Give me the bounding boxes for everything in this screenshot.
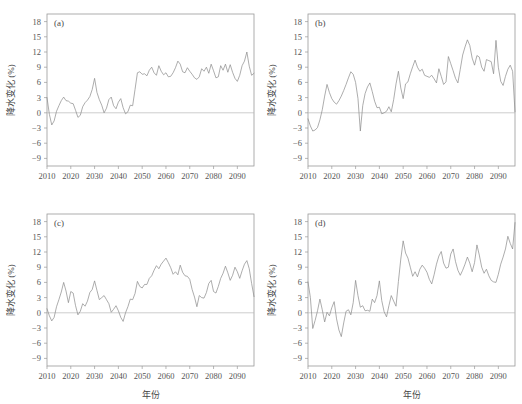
- y-tick-label: −3: [32, 323, 41, 333]
- panel-d-plot: 1815129630−3−6−9201020202030204020502060…: [261, 200, 522, 404]
- y-axis-title: 降水变化 (%): [266, 64, 277, 116]
- y-tick-label: 15: [294, 32, 303, 42]
- y-tick-label: 3: [37, 93, 41, 103]
- y-tick-label: −6: [32, 138, 41, 148]
- y-tick-label: 0: [37, 308, 41, 318]
- y-tick-label: −9: [32, 353, 41, 363]
- x-tick-label: 2020: [62, 171, 79, 181]
- y-tick-label: −3: [293, 123, 302, 133]
- y-tick-label: 12: [294, 247, 303, 257]
- x-tick-label: 2010: [300, 171, 317, 181]
- x-tick-label: 2060: [157, 371, 174, 381]
- x-tick-label: 2090: [229, 171, 246, 181]
- y-axis-title: 降水变化 (%): [5, 64, 16, 116]
- panel-c-plot: 1815129630−3−6−9201020202030204020502060…: [0, 200, 261, 404]
- y-tick-label: 15: [33, 32, 42, 42]
- y-tick-label: 6: [298, 77, 302, 87]
- y-tick-label: 12: [33, 247, 42, 257]
- y-tick-label: 18: [294, 217, 303, 227]
- y-tick-label: 6: [37, 277, 41, 287]
- x-tick-label: 2070: [442, 371, 459, 381]
- x-tick-label: 2010: [39, 171, 56, 181]
- y-tick-label: 9: [37, 62, 41, 72]
- y-tick-label: 0: [37, 108, 41, 118]
- panel-d: 1815129630−3−6−9201020202030204020502060…: [261, 200, 522, 402]
- y-tick-label: −9: [293, 353, 302, 363]
- x-tick-label: 2040: [371, 371, 388, 381]
- precipitation-change-figure: 1815129630−3−6−9201020202030204020502060…: [0, 0, 522, 404]
- x-tick-label: 2080: [466, 371, 483, 381]
- panel-label: (c): [54, 218, 64, 228]
- x-tick-label: 2080: [466, 171, 483, 181]
- x-tick-label: 2030: [86, 371, 103, 381]
- plot-frame: [47, 214, 254, 366]
- y-tick-label: 12: [33, 47, 42, 57]
- x-tick-label: 2070: [181, 371, 198, 381]
- x-axis-title: 年份: [403, 389, 421, 400]
- panel-b: 1815129630−3−6−9201020202030204020502060…: [261, 0, 522, 202]
- y-tick-label: 6: [298, 277, 302, 287]
- x-tick-label: 2090: [490, 371, 507, 381]
- x-tick-label: 2030: [347, 371, 364, 381]
- data-series-line: [308, 40, 515, 131]
- panel-a: 1815129630−3−6−9201020202030204020502060…: [0, 0, 261, 202]
- x-tick-label: 2090: [490, 171, 507, 181]
- panel-a-plot: 1815129630−3−6−9201020202030204020502060…: [0, 0, 261, 202]
- y-tick-label: 12: [294, 47, 303, 57]
- data-series-line: [47, 258, 254, 321]
- panel-b-plot: 1815129630−3−6−9201020202030204020502060…: [261, 0, 522, 202]
- x-tick-label: 2060: [418, 171, 435, 181]
- y-tick-label: 15: [33, 232, 42, 242]
- x-tick-label: 2060: [418, 371, 435, 381]
- x-tick-label: 2010: [39, 371, 56, 381]
- y-tick-label: −6: [293, 138, 302, 148]
- y-tick-label: 6: [37, 77, 41, 87]
- y-tick-label: 0: [298, 108, 302, 118]
- plot-frame: [47, 14, 254, 166]
- panel-c: 1815129630−3−6−9201020202030204020502060…: [0, 200, 261, 402]
- y-tick-label: 3: [298, 293, 302, 303]
- plot-frame: [308, 214, 515, 366]
- y-axis-title: 降水变化 (%): [266, 264, 277, 316]
- x-tick-label: 2050: [395, 371, 412, 381]
- y-tick-label: −3: [293, 323, 302, 333]
- y-tick-label: −6: [293, 338, 302, 348]
- y-tick-label: 3: [37, 293, 41, 303]
- y-tick-label: 9: [298, 262, 302, 272]
- x-tick-label: 2040: [110, 371, 127, 381]
- y-tick-label: 3: [298, 93, 302, 103]
- plot-frame: [308, 14, 515, 166]
- x-tick-label: 2070: [442, 171, 459, 181]
- y-tick-label: 18: [294, 17, 303, 27]
- x-tick-label: 2080: [205, 171, 222, 181]
- y-tick-label: 9: [298, 62, 302, 72]
- x-tick-label: 2030: [86, 171, 103, 181]
- y-tick-label: −9: [293, 153, 302, 163]
- x-tick-label: 2090: [229, 371, 246, 381]
- y-tick-label: 15: [294, 232, 303, 242]
- x-tick-label: 2020: [62, 371, 79, 381]
- x-tick-label: 2040: [110, 171, 127, 181]
- x-tick-label: 2040: [371, 171, 388, 181]
- y-tick-label: 18: [33, 17, 42, 27]
- x-tick-label: 2050: [134, 371, 151, 381]
- y-tick-label: 9: [37, 262, 41, 272]
- panel-label: (d): [315, 218, 326, 228]
- panel-label: (b): [315, 18, 326, 28]
- x-tick-label: 2050: [395, 171, 412, 181]
- y-tick-label: 18: [33, 217, 42, 227]
- x-tick-label: 2050: [134, 171, 151, 181]
- y-tick-label: −3: [32, 123, 41, 133]
- panel-label: (a): [54, 18, 64, 28]
- y-axis-title: 降水变化 (%): [5, 264, 16, 316]
- x-tick-label: 2070: [181, 171, 198, 181]
- x-tick-label: 2010: [300, 371, 317, 381]
- y-tick-label: −9: [32, 153, 41, 163]
- x-tick-label: 2030: [347, 171, 364, 181]
- x-axis-title: 年份: [142, 389, 160, 400]
- x-tick-label: 2020: [323, 371, 340, 381]
- y-tick-label: 0: [298, 308, 302, 318]
- data-series-line: [308, 223, 515, 337]
- y-tick-label: −6: [32, 338, 41, 348]
- x-tick-label: 2080: [205, 371, 222, 381]
